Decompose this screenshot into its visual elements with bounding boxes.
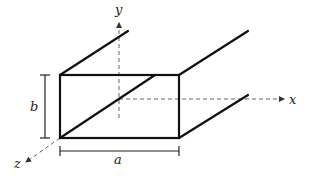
z-axis-label: z — [13, 156, 21, 171]
coordinate-axes — [26, 23, 284, 162]
width-label-a: a — [114, 152, 122, 167]
bottom-diagonal-edge — [60, 75, 155, 138]
waveguide-walls — [60, 31, 248, 138]
waveguide-diagram: y x z b a — [0, 0, 312, 182]
x-axis-label: x — [289, 92, 297, 107]
bottom-right-back-edge — [179, 95, 248, 138]
y-axis-label: y — [114, 2, 123, 17]
top-right-back-edge — [179, 31, 248, 75]
z-axis — [26, 138, 60, 162]
height-label-b: b — [30, 99, 38, 114]
top-left-back-edge — [60, 31, 128, 75]
front-rectangle — [60, 75, 179, 138]
dimension-b — [40, 75, 50, 138]
